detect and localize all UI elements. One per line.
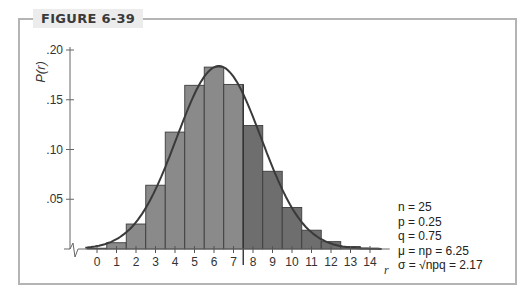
x-tick-label: 5 xyxy=(191,255,198,269)
x-tick-label: 8 xyxy=(250,255,257,269)
x-tick-label: 14 xyxy=(363,255,377,269)
y-axis-label: P(r) xyxy=(33,61,48,83)
histogram-bar xyxy=(224,84,244,249)
param-p: p = 0.25 xyxy=(398,215,483,230)
histogram-bar xyxy=(146,185,166,249)
y-tick-label: .20 xyxy=(46,43,63,57)
x-tick-label: 9 xyxy=(269,255,276,269)
histogram-bar xyxy=(243,126,263,249)
x-tick-label: 4 xyxy=(172,255,179,269)
x-tick-label: 6 xyxy=(211,255,218,269)
x-tick-label: 2 xyxy=(133,255,140,269)
param-sigma: σ = √npq = 2.17 xyxy=(398,258,483,273)
y-tick-label: .10 xyxy=(46,143,63,157)
histogram-bar xyxy=(126,224,146,249)
x-tick-label: 12 xyxy=(324,255,338,269)
param-q: q = 0.75 xyxy=(398,229,483,244)
x-tick-label: 7 xyxy=(230,255,237,269)
y-tick-label: .05 xyxy=(46,192,63,206)
x-tick-label: 1 xyxy=(113,255,120,269)
histogram-bar xyxy=(165,132,185,249)
y-tick-label: .15 xyxy=(46,93,63,107)
parameters-block: n = 25 p = 0.25 q = 0.75 μ = np = 6.25 σ… xyxy=(398,200,483,273)
x-tick-label: 0 xyxy=(94,255,101,269)
x-tick-label: 3 xyxy=(152,255,159,269)
x-axis-label: r xyxy=(384,263,389,277)
x-tick-label: 10 xyxy=(285,255,299,269)
histogram-bar xyxy=(282,208,302,249)
x-tick-label: 11 xyxy=(305,255,318,269)
x-tick-label: 13 xyxy=(344,255,358,269)
histogram-bar xyxy=(204,67,224,249)
param-n: n = 25 xyxy=(398,200,483,215)
param-mu: μ = np = 6.25 xyxy=(398,244,483,259)
